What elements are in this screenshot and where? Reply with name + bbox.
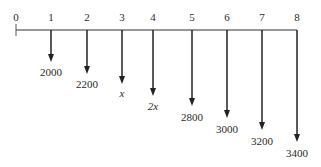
flow-label-7: 3200 <box>251 135 273 147</box>
period-label-4: 4 <box>150 11 156 23</box>
period-label-0: 0 <box>13 11 19 23</box>
flow-label-3: x <box>120 87 125 99</box>
flow-label-2: 2200 <box>76 78 98 90</box>
arrow-period-6 <box>224 30 230 118</box>
arrow-period-2 <box>84 30 90 74</box>
period-label-2: 2 <box>84 11 90 23</box>
arrow-period-4 <box>150 30 156 96</box>
arrow-period-5 <box>189 30 195 106</box>
flow-label-6: 3000 <box>216 123 238 135</box>
arrow-period-1 <box>48 30 54 62</box>
period-label-8: 8 <box>294 11 300 23</box>
arrow-period-8 <box>294 30 300 142</box>
period-label-1: 1 <box>48 11 54 23</box>
flow-label-1: 2000 <box>40 66 62 78</box>
period-label-3: 3 <box>119 11 125 23</box>
flow-label-8: 3400 <box>286 147 308 159</box>
period-label-5: 5 <box>189 11 195 23</box>
period-label-7: 7 <box>259 11 265 23</box>
flow-label-5: 2800 <box>181 111 203 123</box>
arrow-period-7 <box>259 30 265 130</box>
flow-label-4: 2x <box>148 100 158 112</box>
period-label-6: 6 <box>224 11 230 23</box>
arrow-period-3 <box>119 30 125 84</box>
